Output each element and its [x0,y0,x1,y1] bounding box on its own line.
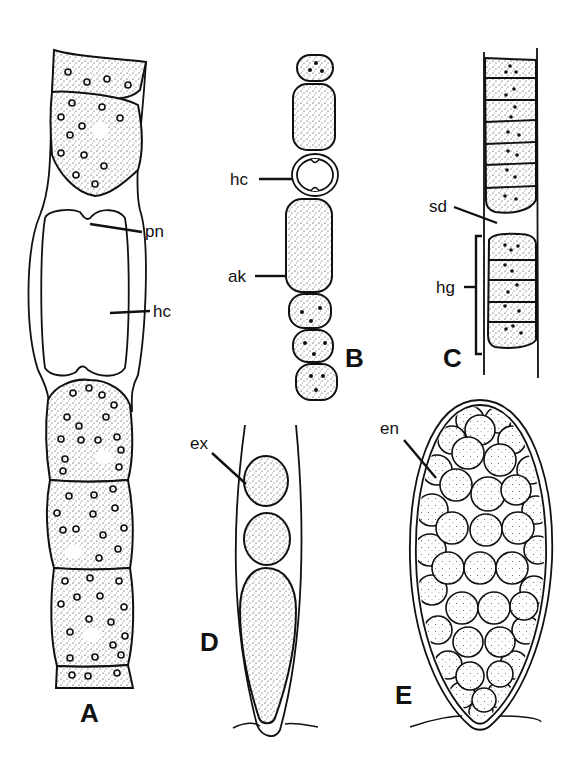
label-sd: sd [429,197,447,216]
vegetative-cell [47,480,133,570]
vegetative-cell [289,294,331,328]
heterocyst [41,210,129,376]
panel-e: en E [380,400,552,730]
substrate [233,723,318,728]
panel-label-d: D [200,627,219,657]
cyanobacteria-figure: pn hc A [0,0,581,762]
panel-label-a: A [80,698,99,728]
label-hg: hg [436,278,455,297]
exospore [244,456,288,506]
panel-label-b: B [345,343,364,373]
vacuole [92,121,108,139]
label-hc: hc [230,170,248,189]
vegetative-cell [46,380,132,482]
label-ex: ex [190,434,208,453]
exospore [244,513,290,565]
vegetative-cell [293,84,335,150]
panel-label-e: E [395,680,412,710]
panel-b: hc ak B [228,55,364,400]
hg-bracket [476,236,482,354]
label-pn: pn [145,222,164,241]
akinete [286,199,332,292]
heterocyst [292,154,338,196]
panel-label-c: C [443,343,462,373]
vacuole [83,628,101,642]
label-en: en [380,419,399,438]
vacuole [65,545,83,559]
vacuole [95,450,113,464]
vegetative-cell [293,330,333,362]
pn-leader [90,224,142,232]
panel-d: ex D [190,425,318,736]
vegetative-cell [51,92,142,196]
label-hc: hc [153,302,171,321]
vegetative-cell-row [485,58,536,213]
vegetative-cell-bottom [56,665,133,688]
label-ak: ak [228,267,246,286]
panel-a: pn hc A [28,50,171,728]
vegetative-cell [297,55,333,81]
panel-c: sd hg C [429,48,538,378]
vegetative-cell [296,364,337,400]
